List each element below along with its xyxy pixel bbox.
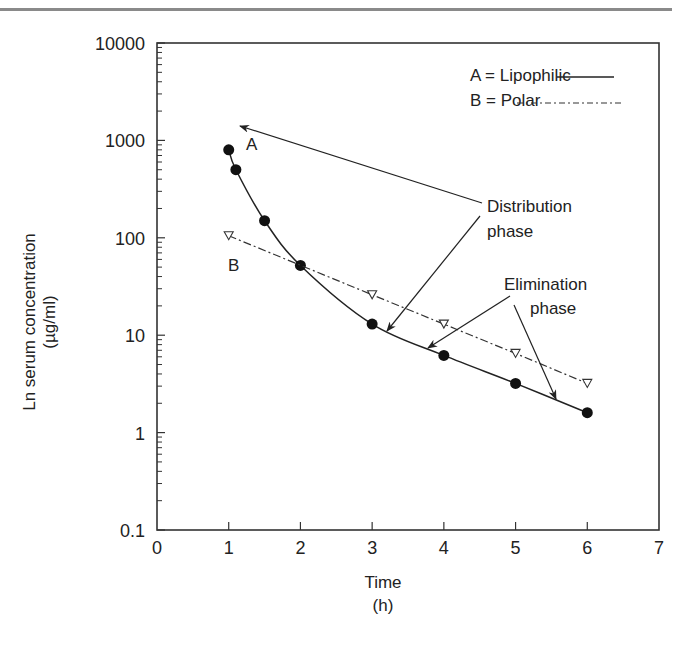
legend-label-b: B = Polar	[470, 91, 541, 110]
elimination-label: phase	[530, 299, 576, 318]
series-a-marker	[295, 260, 306, 271]
distribution-label: Distribution	[487, 197, 572, 216]
distribution-label: phase	[487, 222, 533, 241]
y-axis-title: Ln serum concentration	[20, 212, 40, 432]
axis-ticks: 012345670.1110100100010000	[95, 34, 664, 558]
y-axis-label: Ln serum concentration (µg/ml)	[20, 212, 60, 432]
label-b: B	[228, 256, 239, 275]
y-tick-label: 1000	[105, 131, 145, 151]
x-tick-label: 0	[152, 538, 162, 558]
y-tick-label: 10000	[95, 34, 145, 54]
series-b-marker	[583, 379, 592, 387]
distribution-arrow	[240, 126, 482, 203]
x-axis-unit: (h)	[373, 596, 394, 615]
x-tick-label: 2	[295, 538, 305, 558]
series-b-marker	[368, 291, 377, 299]
chart: 012345670.1110100100010000 ABDistributio…	[0, 0, 698, 651]
series-b-marker	[511, 349, 520, 357]
series-a-marker	[223, 144, 234, 155]
y-tick-label: 1	[135, 424, 145, 444]
x-axis-label: Time	[364, 573, 401, 592]
legend: A = LipophilicB = Polar	[470, 66, 622, 110]
x-tick-label: 1	[224, 538, 234, 558]
x-tick-label: 4	[439, 538, 449, 558]
series-a-marker	[510, 378, 521, 389]
series-b-marker	[439, 320, 448, 328]
annotations: ABDistributionphaseEliminationphase	[228, 126, 587, 399]
series-a-marker	[230, 164, 241, 175]
y-tick-label: 0.1	[120, 521, 145, 541]
series-a-marker	[438, 350, 449, 361]
y-tick-label: 100	[115, 229, 145, 249]
distribution-arrow	[387, 216, 480, 331]
x-tick-label: 3	[367, 538, 377, 558]
elimination-label: Elimination	[504, 275, 587, 294]
x-tick-label: 6	[582, 538, 592, 558]
x-tick-label: 5	[511, 538, 521, 558]
y-axis-unit: (µg/ml)	[40, 212, 60, 432]
legend-label-a: A = Lipophilic	[470, 66, 571, 85]
series-a-marker	[259, 215, 270, 226]
series-a-marker	[582, 407, 593, 418]
y-tick-label: 10	[125, 326, 145, 346]
x-tick-label: 7	[654, 538, 664, 558]
label-a: A	[246, 135, 258, 154]
series-a-marker	[367, 319, 378, 330]
series-b-marker	[224, 232, 233, 240]
